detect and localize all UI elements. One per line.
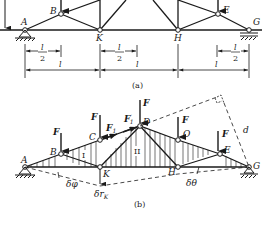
truss-diagram: A B K H E G l 2 bbox=[0, 0, 267, 227]
node-label-g: G bbox=[253, 17, 260, 27]
dimension-labels-a: l 2 l 2 l 2 l l l bbox=[38, 43, 241, 69]
dim-half-mid-num: l bbox=[118, 43, 121, 52]
svg-text:I: I bbox=[82, 151, 85, 160]
node-label-k: K bbox=[95, 33, 104, 43]
node-label-h-b: H bbox=[167, 167, 176, 177]
joints-a bbox=[23, 12, 252, 33]
node-label-a-b: A bbox=[20, 155, 28, 165]
roller-support-g bbox=[240, 33, 258, 40]
dim-full-left: l bbox=[59, 60, 62, 69]
delta-phi-tick bbox=[58, 172, 59, 178]
force-f1-arrow bbox=[103, 134, 117, 139]
delta-theta-tick bbox=[197, 167, 199, 174]
dim-half-left-num: l bbox=[41, 43, 44, 52]
load-label-o: F bbox=[181, 115, 189, 125]
node-label-a: A bbox=[20, 17, 28, 27]
panel-a: A B K H E G l 2 bbox=[0, 0, 262, 90]
virtual-displacement-lines bbox=[25, 97, 249, 186]
dim-full-mid: l bbox=[136, 60, 139, 69]
rigid-body-ii-hatch bbox=[106, 128, 241, 167]
load-label-d: F bbox=[142, 98, 150, 108]
node-label-h: H bbox=[173, 33, 182, 43]
distance-d-label: d bbox=[243, 125, 249, 135]
dim-half-left-den: 2 bbox=[40, 54, 45, 63]
delta-phi-label: δφ bbox=[66, 179, 78, 189]
node-label-e-b: E bbox=[223, 145, 231, 155]
right-angle-marker bbox=[215, 95, 224, 103]
load-label-c: F bbox=[90, 112, 98, 122]
node-label-c-b: C bbox=[89, 132, 96, 142]
node-label-b: B bbox=[49, 6, 57, 16]
node-label-o-b: O bbox=[183, 129, 191, 139]
rigid-body-i-label: I bbox=[81, 150, 87, 160]
caption-b: (b) bbox=[134, 200, 145, 209]
delta-rk-label: δrK bbox=[94, 189, 109, 200]
load-label-e: F bbox=[221, 129, 229, 139]
node-label-k-b: K bbox=[102, 169, 111, 179]
panel-b: F F F F F F1 F′1 A B C D O E G K H I II bbox=[15, 95, 260, 209]
node-label-d-b: D bbox=[142, 117, 150, 127]
load-label-b: F bbox=[52, 127, 60, 137]
dim-full-right: l bbox=[215, 60, 218, 69]
node-label-e: E bbox=[222, 5, 230, 15]
force-label-f1-prime: F′1 bbox=[123, 113, 134, 125]
dim-half-right-den: 2 bbox=[233, 54, 238, 63]
node-label-g-b: G bbox=[253, 161, 260, 171]
delta-theta-label: δθ bbox=[186, 178, 197, 188]
force-label-f1: F1 bbox=[105, 123, 116, 134]
svg-text:II: II bbox=[134, 147, 140, 156]
node-label-b-b: B bbox=[49, 147, 57, 157]
rigid-body-ii-label: II bbox=[133, 146, 143, 156]
caption-a: (a) bbox=[132, 81, 143, 90]
dim-half-right-num: l bbox=[234, 43, 237, 52]
dim-half-mid-den: 2 bbox=[117, 54, 122, 63]
